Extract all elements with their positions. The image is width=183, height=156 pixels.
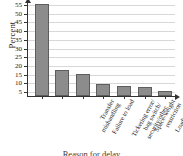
bar	[138, 87, 152, 96]
y-axis-tick: 35	[0, 40, 27, 49]
x-axis-tick-mark	[145, 96, 146, 99]
y-axis-tick: 50	[0, 14, 27, 23]
y-axis-tick: 10	[0, 83, 27, 92]
x-axis-tick-mark	[124, 96, 125, 99]
x-axis-tick-mark	[165, 96, 166, 99]
y-axis-tick-label: 55	[15, 1, 22, 9]
y-axis-tick: 15	[0, 75, 27, 84]
x-axis-tick-mark	[103, 96, 104, 99]
bar	[117, 86, 131, 96]
y-axis-tick: 40	[0, 31, 27, 40]
y-axis-tick-labels: 510152025303540455055	[0, 4, 27, 96]
y-axis-tick: 45	[0, 22, 27, 31]
bar-chart: Percent 510152025303540455055 Transfer m…	[0, 0, 183, 156]
x-axis-category-labels: Transfer mishandlingFailure to loadTicke…	[0, 98, 183, 148]
bar	[96, 84, 110, 96]
bar	[76, 74, 90, 96]
x-axis-tick-mark	[83, 96, 84, 99]
bar-series	[28, 0, 178, 97]
bar	[35, 4, 49, 96]
y-axis-tick: 25	[0, 57, 27, 66]
x-axis-tick-mark	[62, 96, 63, 99]
y-axis-tick: 55	[0, 5, 27, 14]
x-axis-title: Reason for delay	[0, 149, 183, 156]
bar	[55, 70, 69, 96]
y-axis-tick: 20	[0, 66, 27, 75]
x-axis-tick-mark	[42, 96, 43, 99]
y-axis-tick: 30	[0, 49, 27, 58]
